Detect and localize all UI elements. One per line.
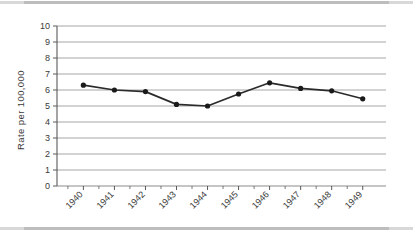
x-axis-tick-label: 1942 xyxy=(126,189,147,210)
data-point xyxy=(174,102,179,107)
data-point-markers xyxy=(81,80,366,108)
x-axis-tick-label: 1948 xyxy=(312,189,333,210)
y-axis-tick-label: 1 xyxy=(45,165,50,175)
y-axis-tick-label: 10 xyxy=(40,21,50,31)
data-point xyxy=(112,87,117,92)
y-axis-label: Rate per 100,000 xyxy=(15,70,26,150)
y-axis-ticks-group xyxy=(53,26,57,186)
gridlines-group xyxy=(57,26,386,170)
data-point xyxy=(267,80,272,85)
y-axis-tick-label: 6 xyxy=(45,85,50,95)
x-axis-tick-label: 1943 xyxy=(157,189,178,210)
data-point xyxy=(143,89,148,94)
x-axis-tick-label: 1946 xyxy=(250,189,271,210)
y-axis-tick-label: 9 xyxy=(45,37,50,47)
data-point xyxy=(81,83,86,88)
x-axis-tick-label: 1944 xyxy=(188,189,209,210)
y-axis-tick-label: 8 xyxy=(45,53,50,63)
x-axis-ticks-group xyxy=(68,186,363,190)
data-point xyxy=(360,96,365,101)
data-point xyxy=(298,86,303,91)
chart-figure: 012345678910 194019411942194319441945194… xyxy=(0,0,413,233)
y-axis-tick-label: 3 xyxy=(45,133,50,143)
x-axis-tick-label: 1941 xyxy=(95,189,116,210)
line-chart: 012345678910 194019411942194319441945194… xyxy=(0,0,413,233)
x-axis-tick-labels: 1940194119421943194419451946194719481949 xyxy=(64,189,365,210)
y-axis-tick-labels: 012345678910 xyxy=(40,21,50,191)
x-axis-tick-label: 1949 xyxy=(343,189,364,210)
data-point xyxy=(236,91,241,96)
y-axis-tick-label: 0 xyxy=(45,181,50,191)
data-point xyxy=(205,103,210,108)
y-axis-tick-label: 7 xyxy=(45,69,50,79)
data-series-line xyxy=(83,83,362,106)
x-axis-tick-label: 1940 xyxy=(64,189,85,210)
x-axis-tick-label: 1945 xyxy=(219,189,240,210)
x-axis-tick-label: 1947 xyxy=(281,189,302,210)
y-axis-tick-label: 4 xyxy=(45,117,50,127)
y-axis-tick-label: 5 xyxy=(45,101,50,111)
y-axis-tick-label: 2 xyxy=(45,149,50,159)
data-point xyxy=(329,88,334,93)
